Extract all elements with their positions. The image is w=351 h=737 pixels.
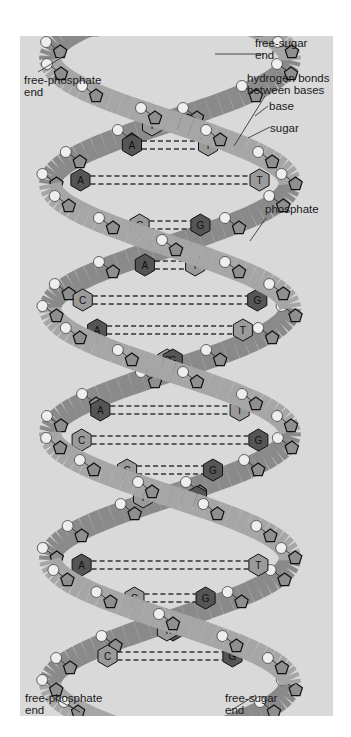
base-letter: C [78, 435, 85, 446]
strand-segment [266, 580, 273, 584]
strand-segment [228, 516, 238, 520]
strand-segment [95, 144, 105, 148]
strand-segment [259, 584, 267, 588]
label-sugar: sugar [270, 122, 299, 134]
strand-segment [284, 692, 287, 696]
strand-segment [51, 424, 53, 428]
strand-segment [78, 652, 86, 656]
strand-segment [86, 148, 95, 152]
phosphate-icon [62, 521, 73, 532]
strand-segment [287, 64, 289, 68]
strand-segment [79, 212, 87, 216]
strand-segment [254, 652, 262, 656]
phosphate-icon [37, 301, 48, 312]
base-letter: T [256, 175, 262, 186]
phosphate-icon [251, 521, 262, 532]
label-free-phosphate-end-bottom: free-phosphate end [25, 692, 102, 716]
strand-segment [167, 120, 179, 124]
phosphate-icon [178, 103, 189, 114]
base-letter: A [142, 260, 149, 271]
phosphate-icon [77, 389, 88, 400]
strand-segment [52, 548, 55, 552]
label-free-sugar-end-bottom: free-sugar end [225, 692, 277, 716]
strand-segment [50, 560, 51, 564]
phosphate-icon [115, 499, 126, 510]
strand-segment [288, 676, 290, 680]
strand-segment [58, 40, 63, 44]
phosphate-icon [60, 147, 71, 158]
phosphate-icon [217, 631, 228, 642]
strand-segment [271, 452, 277, 456]
phosphate-icon [276, 543, 287, 554]
strand-segment [179, 124, 191, 128]
phosphate-icon [48, 565, 59, 576]
strand-segment [209, 384, 220, 388]
base-letter: A [97, 405, 104, 416]
strand-segment [236, 344, 246, 348]
phosphate-icon [153, 609, 164, 620]
strand-segment [110, 388, 121, 392]
strand-segment [110, 100, 121, 104]
label-base: base [269, 100, 294, 112]
strand-segment [56, 292, 60, 296]
base-letter: T [255, 560, 261, 571]
strand-segment [120, 604, 131, 608]
base-letter: G [209, 465, 217, 476]
strand-segment [84, 524, 93, 528]
strand-segment [81, 400, 90, 404]
strand-segment [238, 468, 248, 472]
base-pair: AT [91, 399, 249, 421]
dna-figure-panel: ATATATCGATCGATCGATCGCGATATCGATCG free-ph… [20, 36, 333, 716]
strand-segment [225, 140, 235, 144]
phosphate-icon [51, 653, 62, 664]
strand-segment [112, 476, 123, 480]
phosphate-icon [222, 587, 233, 598]
strand-segment [86, 340, 95, 344]
base-pair: AT [72, 554, 268, 576]
strand-segment [220, 600, 231, 604]
strand-segment [50, 676, 52, 680]
phosphate-icon [236, 389, 247, 400]
strand-segment [191, 628, 203, 632]
strand-segment [104, 140, 114, 144]
strand-segment [188, 236, 200, 240]
strand-segment [161, 368, 173, 372]
base-letter: G [253, 295, 261, 306]
front-strand [37, 36, 302, 716]
strand-segment [81, 588, 90, 592]
strand-segment [102, 516, 112, 520]
strand-segment [288, 436, 289, 440]
strand-segment [79, 276, 87, 280]
strand-segment [74, 584, 82, 588]
phosphate-icon [41, 37, 52, 48]
label-hydrogen-bonds: hydrogen bonds between bases [247, 72, 329, 96]
strand-segment [52, 672, 55, 676]
strand-segment [230, 96, 240, 100]
base-pair: CG [72, 429, 268, 451]
strand-segment [197, 108, 209, 112]
strand-segment [287, 300, 289, 304]
strand-segment [97, 268, 107, 272]
base-letter: G [255, 435, 263, 446]
phosphate-icon [37, 169, 48, 180]
phosphate-icon [253, 323, 264, 334]
phosphate-icon [264, 279, 275, 290]
base-letter: A [77, 175, 84, 186]
strand-segment [86, 648, 95, 652]
label-free-phosphate-end-top: free-phosphate end [24, 74, 101, 98]
strand-segment [53, 296, 56, 300]
strand-segment [149, 364, 161, 368]
base-letter: C [79, 295, 86, 306]
phosphate-icon [276, 169, 287, 180]
base-pair: CG [73, 289, 267, 311]
strand-segment [54, 544, 58, 548]
strand-segment [95, 344, 105, 348]
strand-segment [266, 408, 273, 412]
phosphate-icon [37, 675, 48, 686]
strand-segment [140, 236, 152, 240]
strand-segment [280, 696, 284, 700]
strand-segment [220, 388, 231, 392]
strand-segment [99, 392, 109, 396]
strand-segment [118, 260, 129, 264]
strand-segment [50, 304, 51, 308]
